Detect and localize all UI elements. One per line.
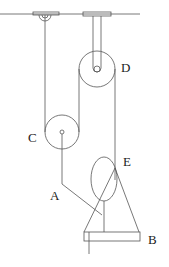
platform-b bbox=[84, 232, 140, 241]
rope-a bbox=[62, 134, 102, 215]
left-hook-bracket bbox=[33, 12, 59, 15]
label-a: A bbox=[50, 188, 60, 203]
person-e-oval bbox=[91, 157, 117, 201]
pulley-c-axle bbox=[60, 130, 64, 134]
label-c: C bbox=[28, 130, 37, 145]
pulley-d-axle bbox=[94, 66, 100, 72]
label-d: D bbox=[121, 60, 130, 75]
pulley-d-wheel bbox=[79, 51, 115, 87]
label-e: E bbox=[123, 154, 131, 169]
pulley-diagram: D C E A B bbox=[0, 0, 169, 267]
platform-support-triangle bbox=[84, 168, 139, 232]
label-b: B bbox=[148, 232, 157, 247]
